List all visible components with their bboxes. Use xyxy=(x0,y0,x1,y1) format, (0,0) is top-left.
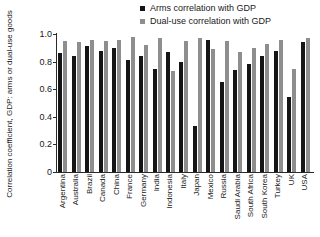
x-axis-label: UK xyxy=(288,174,296,185)
x-label-cell: USA xyxy=(298,174,311,236)
x-axis-label: Germany xyxy=(140,174,148,207)
x-axis-label: Turkey xyxy=(274,174,282,198)
bar-dual-use xyxy=(90,40,94,172)
bar-group xyxy=(110,34,123,172)
bar-arms xyxy=(72,56,76,172)
x-axis-label: Italy xyxy=(180,174,188,189)
x-axis-label: Canada xyxy=(99,174,107,202)
bar-group xyxy=(231,34,244,172)
y-tick-mark xyxy=(53,62,56,63)
bar-dual-use xyxy=(184,41,188,172)
bar-dual-use xyxy=(77,42,81,172)
bar-group xyxy=(56,34,69,172)
x-label-cell: UK xyxy=(285,174,298,236)
x-axis-label: China xyxy=(113,174,121,195)
y-tick-mark xyxy=(53,89,56,90)
x-label-cell: South Africa xyxy=(245,174,258,236)
x-axis-label: USA xyxy=(301,174,309,190)
legend-swatch-arms-icon xyxy=(140,6,145,11)
x-axis-label: India xyxy=(153,174,161,191)
x-axis-line xyxy=(56,172,314,173)
plot-area: 00.20.40.60.81.0 xyxy=(56,34,312,172)
chart-legend: Arms correlation with GDP Dual-use corre… xyxy=(140,2,271,28)
bar-group xyxy=(298,34,311,172)
bar-arms xyxy=(274,51,278,172)
bar-arms xyxy=(301,42,305,172)
x-label-cell: Saudi Arabia xyxy=(231,174,244,236)
bar-dual-use xyxy=(252,48,256,172)
bar-group xyxy=(272,34,285,172)
bar-dual-use xyxy=(265,44,269,172)
x-label-cell: Mexico xyxy=(204,174,217,236)
bar-dual-use xyxy=(238,52,242,172)
x-axis-labels: ArgentinaAustraliaBrazilCanadaChinaFranc… xyxy=(56,174,312,236)
bar-arms xyxy=(99,51,103,172)
bar-group xyxy=(245,34,258,172)
y-axis-title: Correlation coefficient, GDP: arms or du… xyxy=(5,10,15,198)
bar-arms xyxy=(58,53,62,172)
x-label-cell: Russia xyxy=(218,174,231,236)
x-axis-label: Indonesia xyxy=(166,174,174,209)
bar-group xyxy=(218,34,231,172)
bar-dual-use xyxy=(144,45,148,172)
x-axis-label: France xyxy=(126,174,134,199)
legend-item-arms: Arms correlation with GDP xyxy=(140,2,271,14)
x-axis-label: Saudi Arabia xyxy=(234,174,242,219)
bar-arms xyxy=(153,69,157,173)
chart-container: Arms correlation with GDP Dual-use corre… xyxy=(0,0,320,237)
legend-item-dual-use: Dual-use correlation with GDP xyxy=(140,15,271,27)
bar-dual-use xyxy=(279,40,283,172)
x-label-cell: Canada xyxy=(96,174,109,236)
bar-dual-use xyxy=(63,41,67,172)
bar-arms xyxy=(112,48,116,172)
legend-label-arms: Arms correlation with GDP xyxy=(150,3,256,13)
bar-dual-use xyxy=(225,41,229,172)
bar-group xyxy=(123,34,136,172)
bar-dual-use xyxy=(158,38,162,172)
bar-dual-use xyxy=(104,41,108,172)
x-label-cell: China xyxy=(110,174,123,236)
bar-arms xyxy=(126,60,130,172)
bar-dual-use xyxy=(198,38,202,172)
legend-swatch-dual-use-icon xyxy=(140,19,145,24)
x-axis-label: South Korea xyxy=(261,174,269,218)
x-axis-label: South Africa xyxy=(247,174,255,217)
bar-arms xyxy=(85,46,89,172)
x-axis-label: Argentina xyxy=(59,174,67,208)
bar-dual-use xyxy=(131,37,135,172)
bar-dual-use xyxy=(292,69,296,173)
x-label-cell: South Korea xyxy=(258,174,271,236)
bar-arms xyxy=(139,56,143,172)
x-axis-label: Russia xyxy=(220,174,228,198)
legend-label-dual-use: Dual-use correlation with GDP xyxy=(150,16,271,26)
y-tick-mark xyxy=(53,117,56,118)
x-label-cell: Argentina xyxy=(56,174,69,236)
bar-arms xyxy=(166,52,170,172)
bar-dual-use xyxy=(306,38,310,172)
x-axis-label: Brazil xyxy=(86,174,94,194)
x-label-cell: India xyxy=(150,174,163,236)
bar-group xyxy=(96,34,109,172)
y-axis-title-wrap: Correlation coefficient, GDP: arms or du… xyxy=(0,30,21,178)
x-label-cell: Indonesia xyxy=(164,174,177,236)
bar-group xyxy=(150,34,163,172)
x-label-cell: Brazil xyxy=(83,174,96,236)
bar-series-group xyxy=(56,34,312,172)
x-label-cell: Turkey xyxy=(272,174,285,236)
bar-dual-use xyxy=(171,71,175,172)
bar-arms xyxy=(247,64,251,172)
bar-arms xyxy=(179,62,183,172)
bar-group xyxy=(204,34,217,172)
bar-group xyxy=(177,34,190,172)
x-label-cell: Germany xyxy=(137,174,150,236)
bar-group xyxy=(191,34,204,172)
x-axis-label: Australia xyxy=(72,174,80,205)
x-label-cell: France xyxy=(123,174,136,236)
bar-dual-use xyxy=(211,49,215,172)
bar-group xyxy=(164,34,177,172)
bar-group xyxy=(69,34,82,172)
y-tick-mark xyxy=(53,144,56,145)
x-axis-label: Japan xyxy=(193,174,201,196)
bar-arms xyxy=(206,40,210,172)
bar-group xyxy=(285,34,298,172)
